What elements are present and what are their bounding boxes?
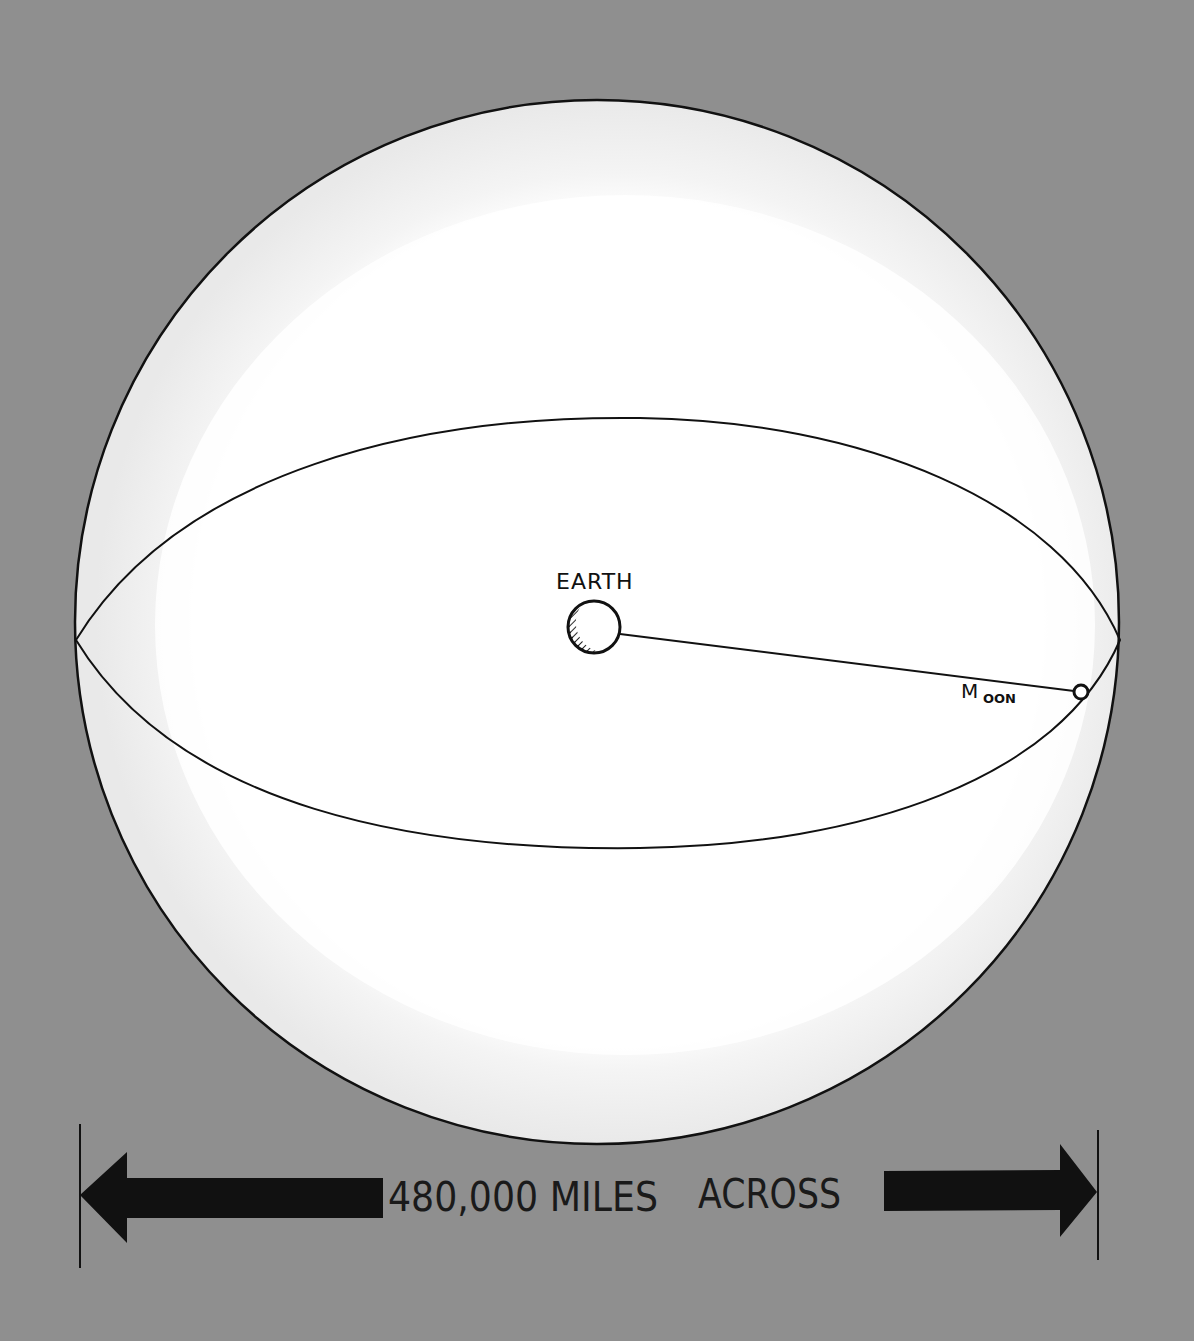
dimension-label-value: 480,000 MILES: [388, 1174, 658, 1220]
moon-label-first: M: [961, 679, 978, 703]
earth-label: EARTH: [556, 569, 634, 594]
dimension-label-across: ACROSS: [698, 1171, 841, 1217]
moon-label-rest: OON: [983, 691, 1016, 706]
earth-moon-sphere-diagram: EARTH M OON 480,000 MILES ACROSS: [0, 0, 1194, 1341]
